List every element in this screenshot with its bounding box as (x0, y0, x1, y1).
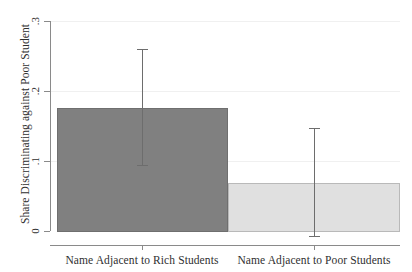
y-axis-title: Share Discriminating against Poor Studen… (16, 4, 34, 244)
plot-area (50, 21, 400, 231)
error-bar-cap-upper-poor-students (309, 128, 320, 129)
error-bar-cap-upper-rich-students (137, 49, 148, 50)
x-axis-label-rich-students: Name Adjacent to Rich Students (42, 252, 242, 268)
y-tick-label-0.1: .1 (28, 148, 42, 174)
y-tick-label-0.3: .3 (28, 8, 42, 34)
x-axis-label-poor-students: Name Adjacent to Poor Students (214, 252, 412, 268)
y-tick-label-0.2: .2 (28, 78, 42, 104)
x-tick-mark-rich-students (142, 245, 143, 250)
y-axis-spine (50, 21, 51, 231)
y-tick-mark-0 (44, 231, 50, 232)
error-bar-cap-lower-rich-students (137, 165, 148, 166)
error-bar-line-poor-students (314, 128, 315, 237)
error-bar-line-rich-students (142, 49, 143, 166)
x-axis-spine (50, 245, 400, 246)
y-tick-mark-0.2 (44, 91, 50, 92)
gridline-0.2 (50, 91, 400, 92)
y-tick-mark-0.1 (44, 161, 50, 162)
y-tick-mark-0.3 (44, 21, 50, 22)
error-bar-cap-lower-poor-students (309, 236, 320, 237)
gridline-0.3 (50, 21, 400, 22)
x-tick-mark-poor-students (314, 245, 315, 250)
bar-chart: Share Discriminating against Poor Studen… (0, 0, 412, 272)
y-tick-label-0: 0 (28, 218, 42, 244)
